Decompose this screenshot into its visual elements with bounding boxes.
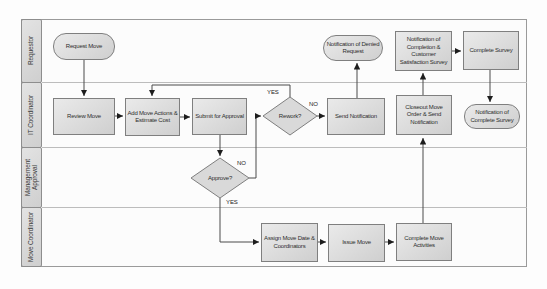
node-send-notification: Send Notification: [327, 98, 385, 135]
node-request-move: Request Move: [53, 33, 115, 60]
node-complete-survey: Complete Survey: [463, 31, 519, 70]
flow-diagram: Requestor IT Coordinator Management Appr…: [0, 0, 547, 289]
node-label: Notification of Complete Survey: [466, 109, 518, 124]
node-label: Issue Move: [342, 239, 371, 247]
node-issue-move: Issue Move: [328, 224, 385, 262]
node-label: Assign Move Date & Coordinators: [263, 235, 316, 250]
node-label: Closeout Move Order & Send Notification: [398, 104, 450, 127]
node-closeout-move-order: Closeout Move Order & Send Notification: [396, 95, 452, 135]
edge-label-approve-no: NO: [237, 160, 246, 166]
node-assign-move-date: Assign Move Date & Coordinators: [261, 223, 318, 262]
node-label: Submit for Approval: [195, 113, 244, 121]
node-complete-move-activities: Complete Move Activities: [396, 223, 452, 261]
edge-approve-no-to-rework: [249, 116, 261, 178]
node-submit-for-approval: Submit for Approval: [192, 98, 247, 135]
node-label: Add Move Actions & Estimate Cost: [127, 110, 178, 125]
edge-label-rework-yes: YES: [267, 89, 279, 95]
node-label: Complete Survey: [469, 47, 512, 55]
node-notification-completion-survey: Notification of Completion & Customer Sa…: [395, 31, 452, 71]
node-approve-label: Approve?: [194, 170, 246, 186]
node-label: Complete Move Activities: [398, 235, 450, 250]
node-review-move: Review Move: [53, 98, 115, 135]
node-notification-complete-survey: Notification of Complete Survey: [464, 104, 520, 129]
node-label: Review Move: [67, 113, 101, 121]
edge-label-rework-no: NO: [309, 101, 318, 107]
node-notification-denied-request: Notification of Denied Request: [323, 35, 383, 61]
node-label: Notification of Denied Request: [325, 41, 381, 56]
node-label: Request Move: [66, 43, 102, 51]
node-label: Notification of Completion & Customer Sa…: [397, 36, 450, 66]
node-label: Send Notification: [335, 113, 377, 121]
edge-label-approve-yes: YES: [226, 199, 238, 205]
node-add-move-actions: Add Move Actions & Estimate Cost: [125, 98, 180, 136]
node-rework-label: Rework?: [266, 107, 314, 125]
